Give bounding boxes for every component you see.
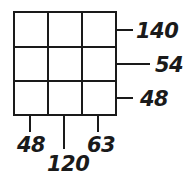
col-clue-1: 48: [17, 135, 45, 156]
grid-border: [14, 12, 116, 115]
row-clue-1: 140: [136, 21, 178, 42]
col-clue-2: 120: [47, 154, 89, 175]
col-clue-3: 63: [87, 135, 115, 156]
row-clue-2: 54: [155, 55, 183, 76]
row-clue-3: 48: [140, 89, 168, 110]
